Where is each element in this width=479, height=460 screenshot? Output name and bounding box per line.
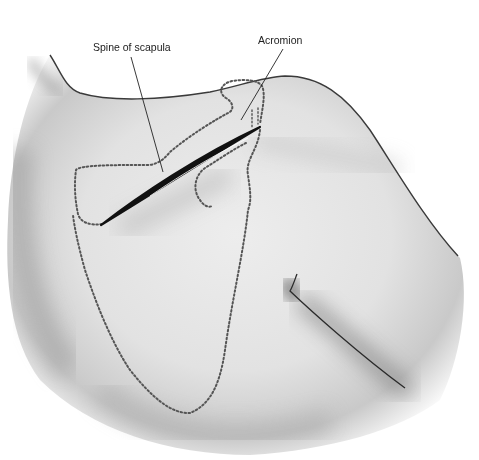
body-silhouette <box>7 55 464 455</box>
shoulder-diagram: Spine of scapula Acromion <box>0 0 479 460</box>
label-acromion: Acromion <box>258 35 302 46</box>
diagram-canvas <box>0 0 479 460</box>
label-spine-of-scapula: Spine of scapula <box>93 42 171 53</box>
